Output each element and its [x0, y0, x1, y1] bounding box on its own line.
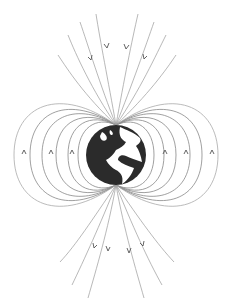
arrow-up-icon	[184, 150, 188, 154]
magnetic-field-diagram	[0, 0, 232, 307]
arrow-down-icon	[124, 44, 129, 49]
arrow-down-icon	[106, 246, 110, 251]
arrow-up-icon	[210, 150, 214, 154]
arrow-down-icon	[143, 54, 147, 59]
earth-globe	[86, 125, 146, 185]
arrow-down-icon	[88, 55, 92, 60]
arrow-down-icon	[127, 248, 131, 253]
arrow-up-icon	[70, 150, 74, 154]
arrow-up-icon	[49, 150, 53, 154]
field-lines-diagram	[0, 0, 232, 307]
arrow-up-icon	[22, 150, 26, 154]
arrow-down-icon	[104, 43, 109, 48]
arrow-down-icon	[93, 243, 97, 248]
